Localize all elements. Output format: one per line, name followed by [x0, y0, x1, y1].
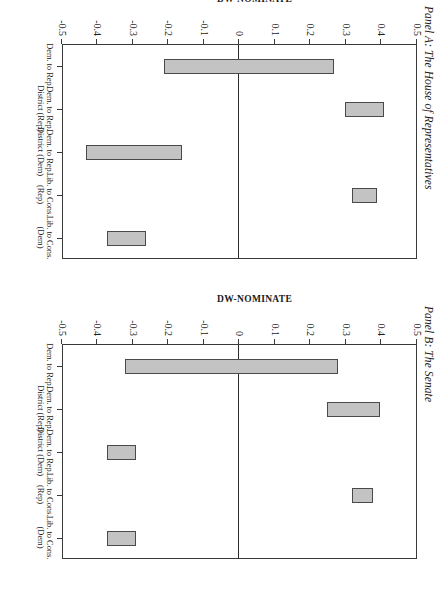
value-tick-label: 0.4 — [376, 24, 387, 37]
value-tick-label: -0.1 — [199, 320, 210, 336]
value-tick-label: 0.1 — [270, 24, 281, 37]
range-bar — [352, 488, 373, 503]
range-bar — [107, 531, 135, 546]
panel-a-title: Panel A: The House of Representatives — [423, 6, 435, 190]
range-bar — [164, 59, 334, 74]
category-tick — [57, 538, 62, 539]
value-tick-label: 0.5 — [412, 24, 423, 37]
value-tick-label: -0.5 — [57, 320, 68, 336]
panel-senate: Panel B: The Senate DW-NOMINATE 0.50.40.… — [0, 300, 441, 599]
panel-house: Panel A: The House of Representatives DW… — [0, 0, 441, 299]
value-tick-label: -0.2 — [163, 20, 174, 36]
category-tick — [57, 238, 62, 239]
value-tick-label: -0.2 — [163, 320, 174, 336]
category-tick — [57, 152, 62, 153]
range-bar — [107, 445, 135, 460]
value-tick-label: 0.4 — [376, 324, 387, 337]
category-label: Lib. to Cons. (Dem) — [35, 512, 54, 564]
panel-b-axis-title: DW-NOMINATE — [217, 294, 292, 304]
range-bar — [125, 359, 338, 374]
value-tick-label: -0.4 — [92, 320, 103, 336]
panel-b-plot-area — [62, 344, 417, 559]
panel-a-axis-title: DW-NOMINATE — [217, 0, 292, 4]
range-bar — [352, 188, 377, 203]
panel-b-zero-line — [238, 345, 239, 558]
value-tick-label: -0.3 — [128, 320, 139, 336]
category-tick — [57, 366, 62, 367]
panel-a-value-axis: DW-NOMINATE 0.50.40.30.20.10-0.1-0.2-0.3… — [62, 0, 417, 44]
value-tick-label: 0 — [234, 331, 245, 336]
category-tick — [57, 452, 62, 453]
category-tick — [57, 195, 62, 196]
range-bar — [86, 145, 182, 160]
value-tick-label: -0.5 — [57, 20, 68, 36]
panel-b-category-axis: Dem. to Rep.Dem. to Rep. District (Rep)D… — [2, 344, 62, 559]
panel-b-title: Panel B: The Senate — [423, 306, 435, 402]
panel-a-plot-area — [62, 44, 417, 259]
category-tick — [57, 409, 62, 410]
category-tick — [57, 66, 62, 67]
value-tick-label: 0.3 — [341, 324, 352, 337]
panel-a-zero-line — [238, 45, 239, 258]
range-bar — [327, 402, 380, 417]
panel-a-category-axis: Dem. to Rep.Dem. to Rep. District (Rep)D… — [2, 44, 62, 259]
value-tick-label: 0.2 — [305, 24, 316, 37]
value-tick-label: 0.5 — [412, 324, 423, 337]
value-tick-label: 0.1 — [270, 324, 281, 337]
panel-b-value-axis: DW-NOMINATE 0.50.40.30.20.10-0.1-0.2-0.3… — [62, 300, 417, 344]
value-tick-label: -0.1 — [199, 20, 210, 36]
value-tick-label: 0.2 — [305, 324, 316, 337]
range-bar — [107, 231, 146, 246]
category-tick — [57, 109, 62, 110]
category-tick — [57, 495, 62, 496]
value-tick-label: -0.4 — [92, 20, 103, 36]
figure-rotator: Panel A: The House of Representatives DW… — [0, 0, 441, 599]
value-tick-label: -0.3 — [128, 20, 139, 36]
value-tick-label: 0 — [234, 31, 245, 36]
range-bar — [345, 102, 384, 117]
category-label: Lib. to Cons. (Dem) — [35, 212, 54, 264]
value-tick-label: 0.3 — [341, 24, 352, 37]
